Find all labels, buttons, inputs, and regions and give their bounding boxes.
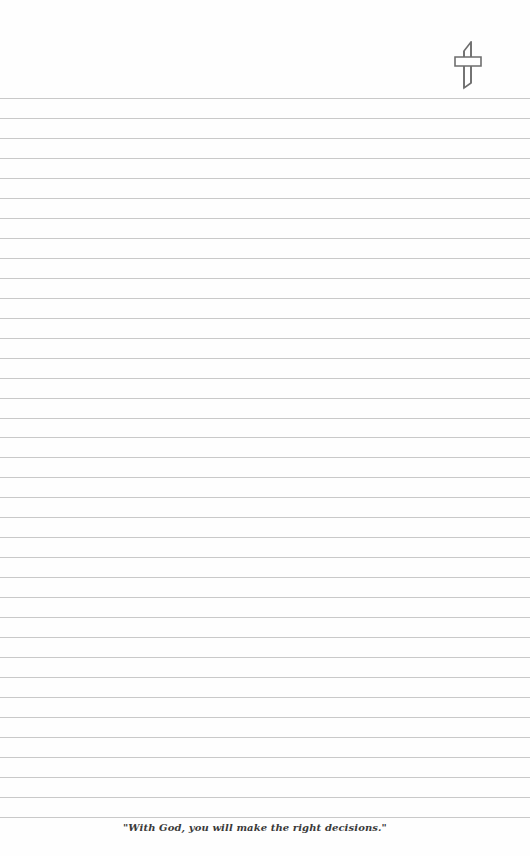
ruled-line [0,98,530,99]
ruled-line [0,677,530,678]
ruled-line [0,437,530,438]
ruled-line [0,757,530,758]
ruled-line [0,577,530,578]
ruled-line [0,218,530,219]
ruled-line [0,278,530,279]
ruled-line [0,158,530,159]
ruled-line [0,378,530,379]
ruled-line [0,258,530,259]
ruled-line [0,398,530,399]
ruled-line [0,178,530,179]
ruled-line [0,637,530,638]
ruled-line [0,597,530,598]
ruled-line [0,817,530,818]
ruled-line [0,138,530,139]
ruled-line [0,557,530,558]
ruled-line [0,497,530,498]
ruled-line [0,238,530,239]
ruled-line [0,338,530,339]
ruled-line [0,418,530,419]
footer-quote: "With God, you will make the right decis… [0,822,510,833]
ruled-line [0,797,530,798]
ruled-line [0,617,530,618]
ruled-line [0,517,530,518]
notepad-page: "With God, you will make the right decis… [0,0,530,856]
ruled-line [0,737,530,738]
ruled-line [0,477,530,478]
ruled-line [0,298,530,299]
ruled-line [0,697,530,698]
ruled-line [0,318,530,319]
ruled-line [0,777,530,778]
ruled-lines [0,0,530,856]
ruled-line [0,118,530,119]
ruled-line [0,537,530,538]
ruled-line [0,717,530,718]
ruled-line [0,358,530,359]
ruled-line [0,657,530,658]
ruled-line [0,198,530,199]
ruled-line [0,457,530,458]
